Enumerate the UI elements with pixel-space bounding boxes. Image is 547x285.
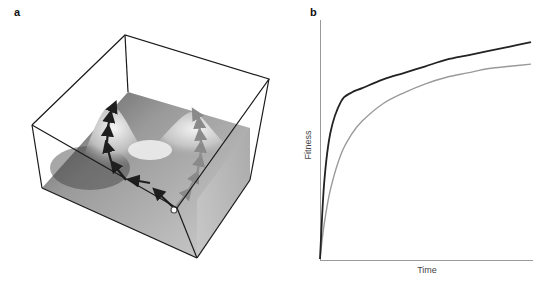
x-axis-label: Time	[417, 265, 437, 275]
fitness-landscape-3d	[0, 0, 290, 285]
gray-fitness-curve	[320, 64, 531, 259]
y-axis-label: Fitness	[303, 130, 313, 160]
landscape-surface	[42, 92, 250, 258]
black-fitness-curve	[320, 42, 531, 259]
panel-b-label: b	[310, 6, 317, 18]
chart-axes	[320, 20, 533, 261]
